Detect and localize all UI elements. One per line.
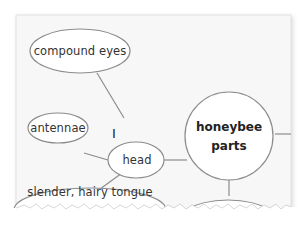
label-compound-eyes: compound eyes [34, 44, 127, 58]
label-antennae: antennae [30, 121, 85, 135]
center-label: honeybee parts [196, 118, 262, 156]
tally-mark: I [112, 126, 116, 141]
label-tongue: slender, hairy tongue [27, 185, 152, 199]
label-head: head [122, 153, 151, 167]
center-label-line1: honeybee [196, 118, 262, 137]
center-label-line2: parts [196, 137, 262, 156]
